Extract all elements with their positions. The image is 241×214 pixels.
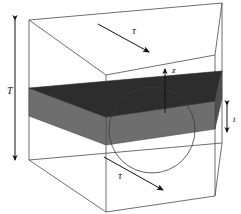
embedded-layer-slab [29, 71, 222, 145]
z-axis-label: z [171, 65, 176, 75]
box-bottom-face [29, 143, 222, 212]
shear-top-label: τ [132, 25, 136, 36]
total-thickness-label: T [7, 85, 14, 96]
layer-thickness-label: t [233, 114, 236, 124]
shear-stress-top-arrow [98, 24, 149, 52]
schematic-diagram: τ τ z T t [0, 0, 241, 214]
shear-stress-bottom-arrow [104, 157, 163, 190]
shear-bottom-label: τ [118, 170, 122, 181]
figure-root: τ τ z T t [0, 0, 241, 214]
